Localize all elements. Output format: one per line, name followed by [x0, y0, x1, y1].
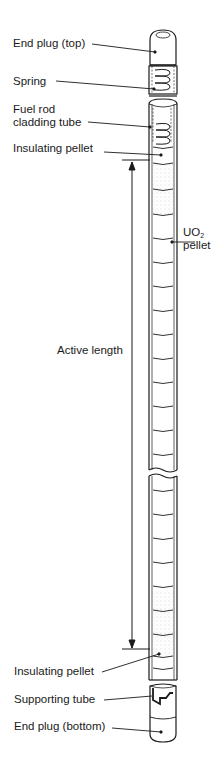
label-end-plug-bottom: End plug (bottom) — [14, 720, 105, 733]
label-cladding-line1: Fuel rod — [13, 103, 55, 116]
label-insulating-pellet-top: Insulating pellet — [13, 142, 93, 155]
cladding-tube — [149, 99, 177, 680]
label-cladding-line2: cladding tube — [13, 116, 81, 129]
uo2-prefix: UO — [183, 226, 200, 238]
label-supporting-tube: Supporting tube — [14, 693, 95, 706]
label-end-plug-top: End plug (top) — [13, 37, 85, 50]
label-active-length: Active length — [57, 344, 123, 357]
label-spring: Spring — [13, 75, 46, 88]
label-insulating-pellet-bottom: Insulating pellet — [14, 665, 94, 678]
end-plug-top — [150, 30, 176, 65]
label-uo2-line2: pellet — [183, 239, 211, 252]
uo2-subscript: 2 — [200, 232, 204, 239]
end-plug-bottom — [150, 684, 176, 742]
active-length-arrow — [122, 160, 150, 649]
